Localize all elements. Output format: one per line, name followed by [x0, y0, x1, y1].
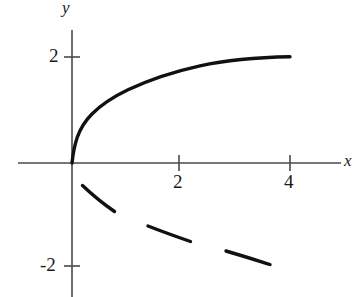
- sqrt-upper-branch-curve: [72, 57, 290, 163]
- tick-marks-group: [64, 57, 290, 266]
- x-tick-label-2: 2: [173, 172, 183, 191]
- figure-canvas: y x 2 -2 2 4: [0, 0, 362, 297]
- y-axis-label: y: [62, 0, 70, 16]
- sqrt-lower-branch-dash-2: [148, 226, 191, 242]
- curve-group: [72, 57, 290, 265]
- x-axis-label: x: [344, 152, 352, 169]
- x-tick-label-4: 4: [284, 172, 294, 191]
- y-tick-label-2: 2: [49, 46, 59, 65]
- sqrt-lower-branch-dash-3: [226, 251, 270, 265]
- sqrt-lower-branch-dash-1: [83, 186, 115, 212]
- y-tick-label-minus-2: -2: [40, 255, 56, 274]
